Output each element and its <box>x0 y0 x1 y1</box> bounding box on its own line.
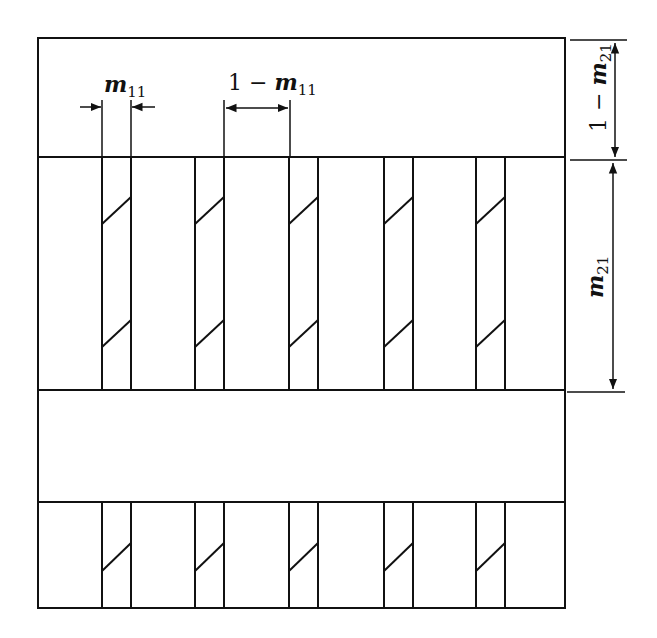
strip <box>384 502 413 608</box>
diagonal-cut <box>195 543 224 571</box>
label-one-minus-m21: 1 − m21 <box>585 43 615 132</box>
diagonal-cut <box>384 320 413 347</box>
diagonal-cut <box>384 543 413 571</box>
diagonal-cut <box>195 320 224 347</box>
diagonal-cut <box>289 197 318 224</box>
dimension-strip-gap: 1 − m11 <box>224 69 317 157</box>
strip <box>289 157 318 390</box>
diagonal-cut <box>102 197 131 224</box>
strip <box>289 502 318 608</box>
strip <box>195 502 224 608</box>
strip <box>102 157 131 390</box>
fractal-strip-diagram: m11 1 − m11 1 − m21 m21 <box>0 0 657 638</box>
label-m21: m21 <box>582 256 612 298</box>
strip <box>195 157 224 390</box>
diagonal-cut <box>289 320 318 347</box>
outer-frame <box>38 38 565 608</box>
bottom-strip-band <box>102 502 505 608</box>
diagonal-cut <box>476 543 505 571</box>
diagonal-cut <box>476 197 505 224</box>
middle-strip-band <box>102 157 505 390</box>
label-one-minus-m11: 1 − m11 <box>228 69 317 99</box>
diagonal-cut <box>476 320 505 347</box>
diagonal-cut <box>102 543 131 571</box>
strip <box>476 502 505 608</box>
strip <box>384 157 413 390</box>
diagonal-cut <box>289 543 318 571</box>
dimension-vertical: 1 − m21 m21 <box>567 40 627 392</box>
diagonal-cut <box>102 320 131 347</box>
strip <box>476 157 505 390</box>
dimension-strip-width: m11 <box>80 71 155 157</box>
label-m11: m11 <box>104 71 146 101</box>
diagonal-cut <box>195 197 224 224</box>
diagonal-cut <box>384 197 413 224</box>
strip <box>102 502 131 608</box>
